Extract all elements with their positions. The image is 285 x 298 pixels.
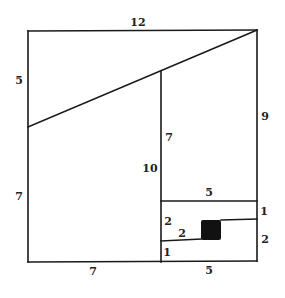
top-edge: [28, 30, 257, 31]
label-inner-top: 5: [205, 187, 213, 198]
label-right-small-upper: 1: [260, 206, 268, 217]
label-right-upper: 9: [261, 111, 269, 122]
label-left-upper: 5: [15, 75, 23, 86]
bottom-edge: [28, 261, 257, 262]
diagonal-line: [28, 30, 257, 127]
label-middle-lower: 10: [142, 163, 157, 174]
label-right-small-lower: 2: [261, 234, 269, 245]
label-middle-upper: 7: [165, 132, 173, 143]
label-bottom-left: 7: [89, 266, 97, 277]
label-inner-left-upper: 2: [164, 216, 172, 227]
step-upper-line: [221, 219, 257, 220]
label-inner-step: 2: [178, 228, 186, 239]
geometry-diagram: [0, 0, 285, 298]
label-inner-left-lower: 1: [163, 247, 171, 258]
label-left-lower: 7: [15, 191, 23, 202]
label-top: 12: [130, 17, 145, 28]
label-bottom-right: 5: [205, 265, 213, 276]
shaded-square: [201, 220, 221, 240]
